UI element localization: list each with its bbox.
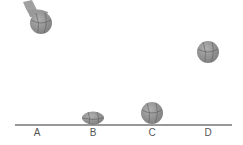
label-b: B: [87, 127, 99, 138]
ball-b-squashed: [82, 112, 104, 125]
bouncing-ball-diagram: A B C D: [0, 0, 243, 145]
label-a: A: [31, 127, 43, 138]
ball-a: [30, 12, 52, 34]
diagram-canvas: [0, 0, 243, 145]
label-d: D: [202, 127, 214, 138]
ball-c: [141, 102, 163, 124]
label-c: C: [146, 127, 158, 138]
ball-d: [197, 41, 219, 63]
